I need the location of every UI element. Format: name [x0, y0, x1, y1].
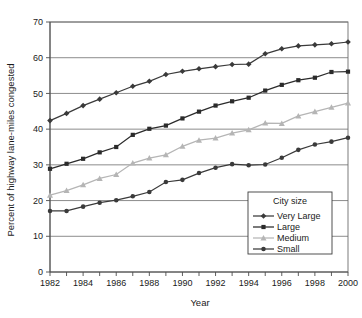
y-axis-tick-label: 0	[38, 267, 43, 277]
legend-title: City size	[273, 196, 307, 206]
series-line	[50, 42, 348, 121]
y-axis-tick-label: 30	[33, 160, 43, 170]
x-axis-tick-label: 1982	[40, 278, 60, 288]
data-point-marker	[296, 78, 300, 82]
x-axis-tick-label: 1986	[106, 278, 126, 288]
series-large	[48, 70, 350, 171]
data-point-marker	[80, 103, 86, 109]
y-axis-tick-label: 60	[33, 53, 43, 63]
data-point-marker	[213, 64, 219, 70]
y-axis-tick-label: 50	[33, 89, 43, 99]
data-point-marker	[130, 83, 136, 89]
data-point-marker	[48, 167, 52, 171]
data-point-marker	[230, 99, 234, 103]
y-axis-title: Percent of highway lane-miles congested	[5, 63, 16, 236]
data-point-marker	[180, 68, 186, 74]
data-point-marker	[329, 70, 333, 74]
data-point-marker	[180, 116, 184, 120]
data-point-marker	[246, 163, 251, 168]
data-point-marker	[346, 135, 351, 140]
data-point-marker	[197, 171, 202, 176]
data-point-marker	[47, 118, 53, 124]
data-point-marker	[180, 178, 185, 183]
chart-legend: City sizeVery LargeLargeMediumSmall	[248, 192, 332, 254]
y-axis-tick-labels: 010203040506070	[33, 17, 43, 277]
data-point-marker	[329, 139, 334, 144]
data-point-marker	[64, 209, 69, 214]
data-point-marker	[213, 103, 217, 107]
data-point-marker	[147, 127, 151, 131]
data-point-marker	[131, 133, 135, 137]
legend-item-label: Large	[277, 222, 300, 232]
data-point-marker	[280, 83, 284, 87]
data-point-marker	[346, 70, 350, 74]
data-point-marker	[246, 61, 252, 67]
data-point-marker	[114, 198, 119, 203]
congestion-line-chart: 010203040506070 198219841986198819901992…	[0, 0, 362, 318]
data-point-marker	[312, 42, 318, 48]
data-point-marker	[146, 78, 152, 84]
data-point-marker	[261, 225, 265, 229]
series-medium	[47, 100, 351, 198]
data-point-marker	[213, 165, 218, 170]
chart-canvas: 010203040506070 198219841986198819901992…	[0, 0, 362, 318]
data-point-marker	[230, 162, 235, 167]
data-point-marker	[261, 247, 266, 252]
data-point-marker	[313, 76, 317, 80]
data-point-marker	[163, 72, 169, 78]
data-point-marker	[164, 123, 168, 127]
x-axis-tick-label: 1992	[206, 278, 226, 288]
y-axis-tick-label: 10	[33, 231, 43, 241]
legend-item-label: Very Large	[277, 211, 321, 221]
x-axis-tick-label: 1998	[305, 278, 325, 288]
data-point-marker	[197, 110, 201, 114]
data-point-marker	[131, 194, 136, 199]
x-axis-tick-label: 1988	[139, 278, 159, 288]
data-series	[47, 39, 351, 213]
data-point-marker	[279, 46, 285, 52]
data-point-marker	[196, 66, 202, 72]
x-axis-tick-label: 1984	[73, 278, 93, 288]
data-point-marker	[247, 96, 251, 100]
data-point-marker	[48, 209, 53, 214]
x-axis-title: Year	[190, 297, 209, 308]
data-point-marker	[164, 180, 169, 185]
x-axis-tick-label: 2000	[338, 278, 358, 288]
data-point-marker	[98, 150, 102, 154]
y-axis-ticks	[46, 22, 50, 272]
data-point-marker	[262, 51, 268, 57]
x-axis-tick-label: 1996	[272, 278, 292, 288]
data-point-marker	[296, 148, 301, 153]
x-axis-tick-label: 1990	[172, 278, 192, 288]
data-point-marker	[97, 200, 102, 205]
data-point-marker	[280, 155, 285, 160]
data-point-marker	[295, 43, 301, 49]
data-point-marker	[64, 111, 70, 117]
y-axis-tick-label: 70	[33, 17, 43, 27]
y-axis-tick-label: 40	[33, 124, 43, 134]
x-axis-tick-label: 1994	[239, 278, 259, 288]
data-point-marker	[345, 100, 351, 106]
data-point-marker	[345, 39, 351, 45]
legend-item-label: Small	[277, 244, 300, 254]
data-point-marker	[313, 142, 318, 147]
data-point-marker	[113, 90, 119, 96]
data-point-marker	[163, 152, 169, 158]
y-axis-tick-label: 20	[33, 196, 43, 206]
series-line	[50, 103, 348, 195]
data-point-marker	[147, 190, 152, 195]
x-axis-tick-labels: 1982198419861988199019921994199619982000	[40, 278, 358, 288]
data-point-marker	[329, 41, 335, 47]
data-point-marker	[97, 96, 103, 102]
x-axis-ticks	[50, 272, 348, 276]
data-point-marker	[64, 162, 68, 166]
data-point-marker	[229, 62, 235, 68]
data-point-marker	[263, 88, 267, 92]
data-point-marker	[114, 145, 118, 149]
legend-item-label: Medium	[277, 233, 309, 243]
data-point-marker	[81, 157, 85, 161]
data-point-marker	[81, 204, 86, 209]
data-point-marker	[263, 162, 268, 167]
series-line	[50, 72, 348, 169]
